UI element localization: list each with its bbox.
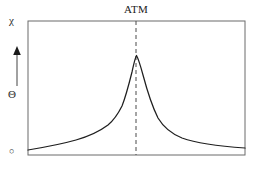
plot-canvas — [0, 0, 260, 169]
y-axis-theta-label: Θ — [8, 89, 16, 100]
up-arrow-icon — [13, 46, 21, 86]
origin-label: ○ — [9, 147, 14, 156]
chart-figure: ATM χ Θ ○ — [0, 0, 260, 169]
y-axis-chi-label: χ — [9, 15, 14, 26]
